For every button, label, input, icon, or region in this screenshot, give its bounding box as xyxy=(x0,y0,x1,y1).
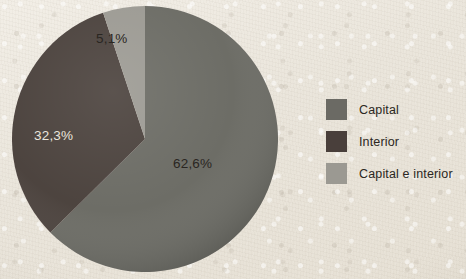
pie-svg xyxy=(11,5,279,273)
chart-legend: Capital Interior Capital e interior xyxy=(326,99,466,184)
legend-label-interior: Interior xyxy=(359,135,399,149)
pie-chart-figure: 62,6% 32,3% 5,1% Capital Interior Capita… xyxy=(0,0,466,279)
pie-shading-overlay xyxy=(12,6,278,272)
legend-swatch-interior xyxy=(326,131,347,152)
legend-item-capital-e-interior: Capital e interior xyxy=(326,163,466,184)
legend-swatch-capital xyxy=(326,99,347,120)
pie-chart xyxy=(11,5,279,273)
legend-swatch-capital-e-interior xyxy=(326,163,347,184)
legend-label-capital: Capital xyxy=(359,103,399,117)
legend-item-interior: Interior xyxy=(326,131,466,152)
legend-label-capital-e-interior: Capital e interior xyxy=(359,167,453,181)
legend-item-capital: Capital xyxy=(326,99,466,120)
